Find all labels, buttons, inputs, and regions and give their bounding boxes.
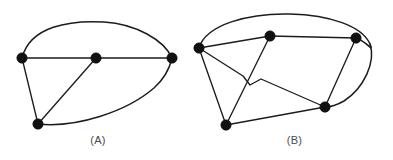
edge-b-topright-bottomright xyxy=(325,38,356,107)
edge-a-bottom-right-arc xyxy=(38,58,172,125)
edge-b-left-bottomright-kink xyxy=(199,48,325,107)
panel-b-graph xyxy=(194,14,372,130)
vertex-b-left xyxy=(194,43,204,53)
vertex-a-left xyxy=(17,53,27,63)
panel-a-graph xyxy=(17,22,177,130)
vertex-a-right xyxy=(167,53,177,63)
edge-b-left-topright-outer xyxy=(199,14,371,48)
edge-b-left-top xyxy=(199,36,270,48)
panel-b-caption: (B) xyxy=(196,134,393,146)
edge-a-left-bottom xyxy=(22,58,38,124)
panel-a-caption: (A) xyxy=(0,134,196,146)
edge-a-center-bottom xyxy=(38,58,96,124)
vertex-a-center xyxy=(91,53,101,63)
edge-b-outer-right-sweep xyxy=(325,44,372,107)
vertex-a-bottom xyxy=(33,119,43,129)
edge-b-bottomleft-bottomright xyxy=(226,107,325,125)
edge-a-left-right-top xyxy=(22,22,172,58)
vertex-b-bottom-right xyxy=(320,102,330,112)
vertex-b-top xyxy=(265,31,275,41)
vertex-b-top-right xyxy=(351,33,361,43)
edge-b-left-bottomleft xyxy=(199,48,226,125)
figure-root: (A) (B) xyxy=(0,0,393,160)
edge-b-top-topright xyxy=(270,36,356,38)
vertex-b-bottom-left xyxy=(221,120,231,130)
